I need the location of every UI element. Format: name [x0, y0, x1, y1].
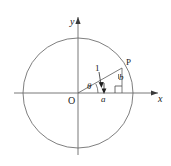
figure-canvas — [0, 0, 171, 166]
radius-label-arrowhead — [99, 82, 104, 88]
angle-theta-label: θ — [87, 82, 91, 91]
horizontal-leg-label: a — [101, 95, 106, 104]
y-axis-arrowhead — [75, 17, 80, 24]
radius-length-label: 1 — [95, 64, 100, 73]
x-axis-label: x — [158, 94, 162, 104]
unit-circle-figure: y x O P 1 θ a b — [0, 0, 171, 166]
y-axis-label: y — [70, 17, 74, 27]
point-p-label: P — [126, 58, 131, 67]
right-angle-marker — [115, 86, 122, 93]
origin-label: O — [68, 96, 75, 106]
vertical-leg-label: b — [119, 73, 124, 82]
x-axis-arrowhead — [151, 90, 158, 95]
angle-arc — [96, 84, 98, 93]
